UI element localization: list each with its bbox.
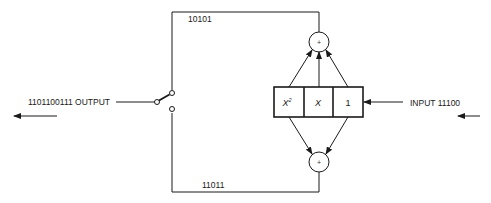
convolutional-encoder-diagram: 10101 11011 + + X2 X 1 INPUT 11100: [0, 0, 491, 203]
lower-taps: [289, 117, 348, 154]
upper-taps: [289, 50, 348, 87]
input: INPUT 11100: [364, 98, 480, 116]
output: 1101100111 OUTPUT: [14, 97, 155, 116]
lower-path-label: 11011: [202, 180, 225, 190]
register-cell-x: X: [314, 98, 322, 108]
switch-contact-lower: [170, 107, 175, 112]
output-label: 1101100111 OUTPUT: [28, 97, 110, 107]
lower-path: 11011: [172, 113, 319, 192]
plus-icon: +: [317, 39, 321, 46]
upper-path: 10101: [172, 12, 319, 90]
lower-adder: +: [309, 152, 329, 172]
upper-adder: +: [309, 32, 329, 52]
output-switch: [155, 91, 175, 112]
input-label: INPUT 11100: [410, 98, 460, 108]
upper-path-label: 10101: [188, 14, 212, 24]
shift-register: X2 X 1: [274, 87, 363, 117]
register-cell-1: 1: [345, 98, 350, 108]
plus-icon: +: [317, 159, 321, 166]
switch-contact-upper: [170, 91, 175, 96]
switch-pivot: [155, 100, 160, 105]
